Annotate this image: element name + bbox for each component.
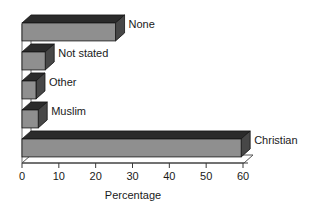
x-tick-label: 10 [53,170,65,182]
bar-label: Muslim [51,105,86,117]
x-tick-label: 0 [19,170,25,182]
chart-canvas: NoneNot statedOtherMuslimChristian 01020… [0,0,311,212]
x-tick-label: 30 [126,170,138,182]
x-tick-label: 60 [237,170,249,182]
bar-front-face [22,81,36,99]
bar-front-face [22,52,45,70]
bar-label: Christian [254,134,297,146]
bar-front-face [22,139,241,157]
bar-front-face [22,110,38,128]
bar-label: Other [49,76,77,88]
x-tick-label: 40 [163,170,175,182]
bar-top-face [22,131,250,139]
bar-front-face [22,23,116,41]
bar-label: None [129,18,155,30]
x-tick-label: 20 [90,170,102,182]
bar-label: Not stated [58,47,108,59]
x-tick-label: 50 [200,170,212,182]
bar-chart: NoneNot statedOtherMuslimChristian 01020… [0,0,311,212]
bar-top-face [22,15,125,23]
x-axis-title: Percentage [105,189,161,201]
